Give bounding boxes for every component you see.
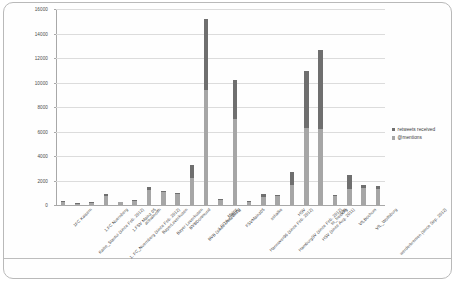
bar-column xyxy=(204,19,209,205)
bar-segment-mentions xyxy=(190,178,195,205)
stacked-bar-chart: 0200040006000800010000120001400016000 1F… xyxy=(0,0,459,283)
bar-segment-mentions xyxy=(275,196,280,205)
bar-series-layer xyxy=(56,9,385,205)
bar-segment-mentions xyxy=(361,188,366,205)
chart-legend: retweets received @mentions xyxy=(392,127,435,144)
x-axis-tick-label: FSVMainz05 xyxy=(244,207,265,228)
bar-column xyxy=(376,186,381,205)
bar-segment-mentions xyxy=(104,196,109,205)
bar-segment-mentions xyxy=(290,185,295,205)
y-axis-tick-label: 6000 xyxy=(8,129,48,134)
x-axis-tick-label: VfL_Wolfsburg xyxy=(374,207,398,231)
y-axis-tick-label: 10000 xyxy=(8,80,48,85)
legend-swatch-retweets-icon xyxy=(392,128,395,131)
bar-column xyxy=(147,187,152,205)
bar-segment-mentions xyxy=(261,197,266,205)
bar-segment-mentions xyxy=(233,119,238,205)
bar-segment-mentions xyxy=(204,90,209,205)
y-axis-tick-label: 2000 xyxy=(8,178,48,183)
x-axis-tick-label: schalke xyxy=(270,207,284,221)
y-axis-tick-label: 4000 xyxy=(8,154,48,159)
bar-column xyxy=(175,193,180,205)
bar-segment-retweets xyxy=(233,80,238,119)
bar-column xyxy=(190,165,195,205)
x-axis-tick-label: werderbremen (since Sep. 2012) xyxy=(399,207,448,256)
bar-column xyxy=(347,175,352,205)
legend-item-mentions: @mentions xyxy=(392,135,435,140)
bar-segment-retweets xyxy=(318,50,323,129)
y-axis-tick-label: 8000 xyxy=(8,105,48,110)
y-axis-tick-label: 12000 xyxy=(8,56,48,61)
bar-segment-mentions xyxy=(376,189,381,205)
y-axis-tick-label: 0 xyxy=(8,203,48,208)
bar-column xyxy=(161,191,166,205)
bar-column xyxy=(333,195,338,205)
bar-column xyxy=(275,195,280,205)
legend-label-mentions: @mentions xyxy=(398,135,422,140)
bar-column xyxy=(233,80,238,205)
x-axis-tick-label: 1FC Kaisern xyxy=(72,207,93,228)
legend-item-retweets: retweets received xyxy=(392,127,435,132)
legend-label-retweets: retweets received xyxy=(398,127,436,132)
x-axis-tick-labels: 1FC KaisernKaise_Slautui (since Feb. 201… xyxy=(56,205,385,206)
bar-segment-retweets xyxy=(347,175,352,189)
bar-segment-mentions xyxy=(318,129,323,205)
bar-segment-mentions xyxy=(161,192,166,205)
bar-segment-mentions xyxy=(175,194,180,205)
x-axis-tick-label: VfLBochum xyxy=(358,207,378,227)
bar-segment-retweets xyxy=(204,19,209,90)
legend-swatch-mentions-icon xyxy=(392,136,395,139)
bar-segment-mentions xyxy=(347,189,352,205)
bar-segment-mentions xyxy=(333,196,338,205)
bar-segment-retweets xyxy=(304,71,309,127)
bar-column xyxy=(104,194,109,206)
bar-segment-mentions xyxy=(147,190,152,205)
bar-segment-retweets xyxy=(290,172,295,185)
bar-segment-mentions xyxy=(304,128,309,205)
bar-column xyxy=(290,172,295,205)
y-axis-tick-label: 14000 xyxy=(8,31,48,36)
bar-column xyxy=(318,50,323,205)
y-axis-tick-label: 16000 xyxy=(8,7,48,12)
plot-area xyxy=(56,9,385,205)
bar-column xyxy=(304,71,309,205)
bar-column xyxy=(261,194,266,205)
bar-column xyxy=(361,185,366,205)
bar-segment-retweets xyxy=(190,165,195,178)
